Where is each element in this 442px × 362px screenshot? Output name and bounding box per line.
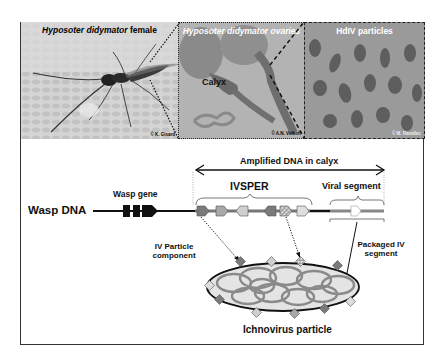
ichnovirus-particle-illustration <box>205 257 359 319</box>
iv-particle-component-label: IV Particle component <box>146 242 202 260</box>
wasp-dna-label: Wasp DNA <box>28 204 86 216</box>
packaged-iv-line1: Packaged IV <box>355 240 407 249</box>
ichnovirus-particle-label: Ichnovirus particle <box>243 324 332 335</box>
packaged-iv-line2: segment <box>355 249 407 258</box>
iv-particle-component-line2: component <box>146 251 202 260</box>
packaged-iv-segment-label: Packaged IV segment <box>355 240 407 258</box>
iv-particle-component-line1: IV Particle <box>146 242 202 251</box>
ivsper-label: IVSPER <box>230 180 269 192</box>
wasp-gene-label: Wasp gene <box>113 189 158 199</box>
viral-segment-label: Viral segment <box>322 181 381 191</box>
amplified-dna-label: Amplified DNA in calyx <box>240 156 338 166</box>
